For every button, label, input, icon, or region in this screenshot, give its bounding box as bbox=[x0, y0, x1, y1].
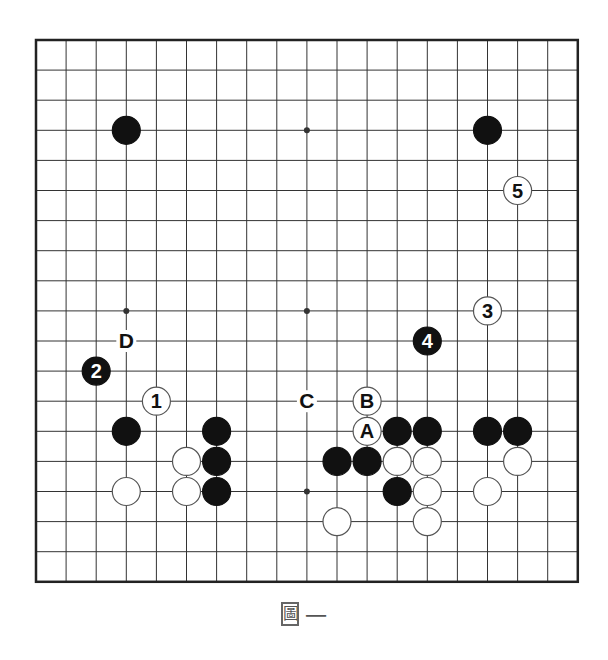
black-stone bbox=[383, 417, 411, 445]
white-stone-b: B bbox=[353, 387, 381, 415]
white-stone bbox=[413, 508, 441, 536]
black-stone bbox=[203, 478, 231, 506]
black-stone bbox=[203, 447, 231, 475]
stone-label: B bbox=[360, 390, 374, 412]
point-label-d: D bbox=[119, 329, 134, 352]
star-point-icon bbox=[304, 489, 310, 495]
black-stone-4: 4 bbox=[413, 327, 441, 355]
white-stone-3: 3 bbox=[474, 297, 502, 325]
black-stone-2: 2 bbox=[82, 357, 110, 385]
black-stone bbox=[353, 447, 381, 475]
stone-label: A bbox=[360, 420, 374, 442]
black-stone bbox=[474, 417, 502, 445]
stone-label: 5 bbox=[512, 180, 523, 202]
white-stone bbox=[173, 478, 201, 506]
star-point-icon bbox=[304, 127, 310, 133]
white-stone bbox=[504, 447, 532, 475]
white-stone-a: A bbox=[353, 417, 381, 445]
white-stone bbox=[173, 447, 201, 475]
black-stone bbox=[323, 447, 351, 475]
black-stone bbox=[112, 116, 140, 144]
black-stone bbox=[112, 417, 140, 445]
white-stone bbox=[112, 478, 140, 506]
white-stone bbox=[413, 447, 441, 475]
white-stone bbox=[474, 478, 502, 506]
stone-label: 3 bbox=[482, 300, 493, 322]
point-label-c: C bbox=[299, 389, 314, 412]
black-stone bbox=[383, 478, 411, 506]
stone-label: 1 bbox=[151, 390, 162, 412]
go-board: CD 12345AB bbox=[0, 0, 608, 610]
caption-char: 一 bbox=[305, 598, 327, 630]
stone-label: 2 bbox=[91, 360, 102, 382]
black-stone bbox=[504, 417, 532, 445]
white-stone bbox=[383, 447, 411, 475]
star-point-icon bbox=[304, 308, 310, 314]
stone-label: 4 bbox=[422, 330, 434, 352]
white-stone-1: 1 bbox=[142, 387, 170, 415]
white-stone bbox=[413, 478, 441, 506]
figure-caption: 圖 一 bbox=[0, 594, 608, 634]
star-point-icon bbox=[123, 308, 129, 314]
white-stone-5: 5 bbox=[504, 177, 532, 205]
black-stone bbox=[474, 116, 502, 144]
black-stone bbox=[203, 417, 231, 445]
caption-char-boxed: 圖 bbox=[281, 602, 299, 626]
white-stone bbox=[323, 508, 351, 536]
black-stone bbox=[413, 417, 441, 445]
